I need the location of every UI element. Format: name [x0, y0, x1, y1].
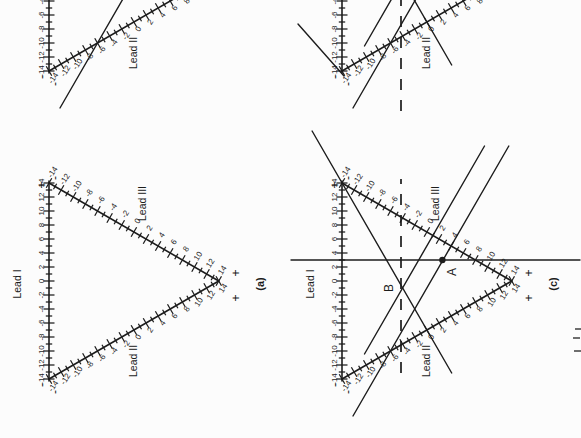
lead-III-label: Lead III: [429, 186, 441, 221]
lead-I-tick-label: -10: [330, 37, 339, 49]
lead-III-tick-label: -8: [83, 187, 95, 198]
lead-I-tick-label: -2: [37, 291, 46, 299]
lead-III-tick: [376, 199, 382, 209]
panel-b: -14-14-14-12-12-12-10-10-10-8-8-8-6-6-6-…: [11, 0, 243, 108]
lead-I-minus-sign: -: [35, 383, 49, 387]
lead-I-tick-label: -4: [330, 305, 339, 313]
lead-II-tick-label: 4: [451, 318, 461, 327]
lead-I-label: Lead I: [304, 269, 316, 298]
lead-II-tick-label: 4: [158, 318, 168, 327]
lead-II-tick-label: 6: [170, 3, 180, 12]
lead-II-tick-label: 8: [182, 304, 192, 313]
panel-caption-a: (a): [254, 277, 266, 291]
lead-II-tick-label: -8: [84, 359, 96, 370]
point-A-dot: [439, 257, 445, 263]
lead-II-tick-label: -6: [389, 44, 401, 55]
lead-III-tick-label: 12: [497, 256, 510, 269]
lead-I-tick-label: 4: [37, 250, 46, 255]
lead-II-tick-label: -4: [401, 37, 413, 48]
lead-II-tick-label: 6: [463, 311, 473, 320]
lead-I-tick-label: -10: [37, 37, 46, 49]
lead-III-tick-label: 6: [169, 237, 179, 246]
lead-II-tick-label: 2: [438, 325, 448, 334]
lead-I-tick-label: -6: [37, 11, 46, 19]
lead-II-tick-label: 4: [451, 10, 461, 19]
lead-II-tick-label: 8: [475, 0, 485, 5]
lead-III-tick-label: -4: [401, 201, 413, 212]
lead-III-tick-label: -10: [70, 178, 84, 193]
lead-III-tick-label: 10: [192, 249, 205, 262]
lead-III-tick: [497, 269, 503, 279]
lead-I-tick-label: -6: [330, 319, 339, 327]
lead-II-tick-label: 2: [438, 17, 448, 26]
lead-II-minus-sign: -: [341, 82, 355, 86]
lead-II-minus-sign: -: [341, 390, 355, 394]
lead-II-tick-label: -6: [96, 352, 108, 363]
lead-III-tick: [363, 192, 369, 202]
lead-III-tick: [83, 199, 89, 209]
lead-II-tick-label: 6: [463, 3, 473, 12]
lead-I-minus-sign: -: [328, 383, 342, 387]
lead-III-minus-sign: -: [48, 176, 62, 180]
lead-I-tick-label: 2: [37, 264, 46, 269]
lead-II-tick-label: -4: [108, 345, 120, 356]
lead-II-tick-label: 14: [217, 281, 230, 294]
lead-II-plus-sign: +: [522, 294, 536, 301]
lead-III-tick: [155, 241, 161, 251]
lead-I-tick-label: -8: [330, 25, 339, 33]
lead-II-label: Lead II: [127, 345, 139, 377]
lead-III-tick: [167, 248, 173, 258]
lead-III-tick: [412, 220, 418, 230]
lead-I-tick-label: -2: [330, 291, 339, 299]
lead-I-tick-label: -8: [37, 333, 46, 341]
upright-figure-wrapper: -14-14-14-12-12-12-10-10-10-8-8-8-6-6-6-…: [0, 0, 581, 438]
lead-II-tick-label: 2: [145, 17, 155, 26]
lead-II-tick-label: 8: [182, 0, 192, 5]
lead-II-tick-label: -6: [389, 352, 401, 363]
lead-I-tick-label: -6: [37, 319, 46, 327]
lead-I-label: Lead I: [11, 269, 23, 298]
lead-II-tick-label: -4: [108, 37, 120, 48]
panel-caption-c: (c): [547, 277, 559, 291]
lead-I-tick-label: 6: [37, 236, 46, 241]
lead-II-tick-label: 4: [158, 10, 168, 19]
lead-III-tick: [436, 234, 442, 244]
lead-II-label: Lead II: [127, 37, 139, 69]
lead-III-tick: [192, 262, 198, 272]
point-B-label: B: [382, 284, 396, 292]
lead-I-tick-label: -8: [330, 333, 339, 341]
lead-I-tick-label: -12: [37, 359, 46, 371]
lead-III-tick: [460, 248, 466, 258]
lead-III-tick-label: 4: [157, 230, 167, 239]
lead-II-tick-label: -6: [96, 44, 108, 55]
lead-I-tick-label: -12: [330, 359, 339, 371]
lead-III-tick-label: 8: [474, 244, 484, 253]
lead-I-tick-label: 12: [330, 192, 339, 201]
lead-I-tick-label: -4: [330, 0, 339, 5]
lead-I-tick-label: -10: [37, 345, 46, 357]
lead-III-minus-sign: -: [341, 176, 355, 180]
lead-II-minus-sign: -: [48, 390, 62, 394]
lead-III-tick-label: -10: [363, 178, 377, 193]
lead-I-tick-label: -6: [330, 11, 339, 19]
einthoven-axis-figure: -14-14-14-12-12-12-10-10-10-8-8-8-6-6-6-…: [0, 0, 581, 438]
lead-III-tick: [107, 213, 113, 223]
point-A-label: A: [445, 268, 459, 276]
lead-II-tick-label: 6: [170, 311, 180, 320]
lead-I-tick-label: 12: [37, 192, 46, 201]
lead-III-tick: [485, 262, 491, 272]
lead-III-tick-label: 14: [509, 263, 522, 276]
lead-II-label: Lead II: [420, 345, 432, 377]
lead-I-tick-label: 8: [330, 222, 339, 227]
lead-III-tick-label: -4: [108, 201, 120, 212]
lead-III-tick-label: 14: [216, 263, 229, 276]
lead-I-tick-label: 4: [330, 250, 339, 255]
panel-a: -14-14-14-12-12-12-10-10-10-8-8-8-6-6-6-…: [11, 164, 266, 394]
lead-II-tick-label: -4: [401, 345, 413, 356]
lead-II-minus-sign: -: [48, 82, 62, 86]
lead-II-tick-label: 14: [510, 281, 523, 294]
lead-II-tick-label: 8: [475, 304, 485, 313]
lead-II-tick-label: 0: [133, 24, 143, 33]
lead-I-plus-sign: +: [328, 181, 342, 188]
lead-III-tick: [351, 185, 357, 195]
